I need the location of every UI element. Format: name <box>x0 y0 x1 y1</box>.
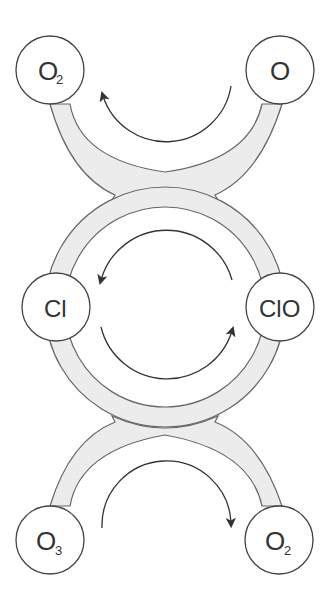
node-o2-top: O 2 <box>16 36 84 104</box>
arrow-o3-to-o2 <box>102 461 231 528</box>
arrow-o-to-o2 <box>103 86 231 142</box>
reaction-arrows <box>101 86 232 528</box>
chlorine-ozone-cycle-diagram: O 2 O Cl ClO O 3 O 2 <box>0 0 328 606</box>
svg-text:Cl: Cl <box>44 295 67 322</box>
svg-text:2: 2 <box>56 72 63 87</box>
node-o2-bottom: O 2 <box>245 506 313 574</box>
svg-text:O: O <box>36 526 56 556</box>
svg-text:O: O <box>270 56 290 86</box>
node-cl: Cl <box>22 273 90 341</box>
svg-text:2: 2 <box>284 543 291 558</box>
node-o3: O 3 <box>16 506 84 574</box>
svg-text:O: O <box>265 526 285 556</box>
arrow-clo-to-cl <box>101 230 232 280</box>
svg-text:3: 3 <box>55 543 62 558</box>
svg-text:ClO: ClO <box>259 295 300 322</box>
node-o-top: O <box>246 36 314 104</box>
arrow-cl-to-clo <box>101 327 232 379</box>
node-clo: ClO <box>246 273 314 341</box>
